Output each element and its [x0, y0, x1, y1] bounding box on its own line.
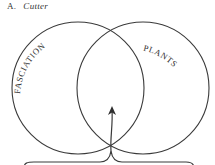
curly-brace [24, 151, 194, 165]
set-label-fasciation-text: FASCIATION [12, 40, 47, 94]
set-label-fasciation: FASCIATION [12, 40, 47, 94]
set-label-plants: PLANTS [142, 43, 179, 70]
set-label-plants-text: PLANTS [142, 43, 179, 70]
set-circle-fasciation [12, 22, 144, 154]
venn-diagram: FASCIATION PLANTS [0, 0, 215, 165]
set-circle-plants [77, 22, 209, 154]
